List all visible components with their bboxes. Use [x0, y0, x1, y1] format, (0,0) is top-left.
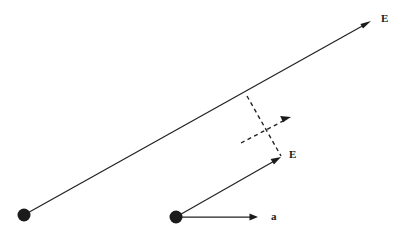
short-field-vector-label: E — [289, 149, 296, 160]
dashed-projection-line — [247, 96, 281, 156]
long-field-vector-label: E — [381, 13, 388, 24]
source-charge-dot — [18, 209, 31, 222]
short-field-vector-line — [176, 160, 277, 217]
short-field-vector-arrowhead — [271, 157, 281, 165]
long-field-vector-line — [24, 25, 365, 216]
test-charge-dot — [170, 211, 183, 224]
acceleration-vector-arrowhead — [250, 213, 259, 220]
vector-diagram-figure: E E a — [0, 0, 408, 235]
acceleration-vector-label: a — [271, 211, 277, 222]
vector-diagram-canvas — [0, 0, 408, 235]
long-field-vector-arrowhead — [360, 21, 371, 29]
